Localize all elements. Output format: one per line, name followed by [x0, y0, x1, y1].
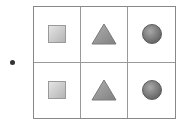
cell-r2-c2: [81, 63, 128, 119]
cell-r1-c1: [34, 7, 81, 63]
circle-icon: [142, 80, 162, 100]
circle-icon: [142, 24, 162, 44]
triangle-icon: [91, 79, 117, 101]
cell-r1-c2: [81, 7, 128, 63]
square-icon: [48, 25, 66, 43]
cell-r1-c3: [128, 7, 175, 63]
bullet-point: [10, 60, 15, 65]
triangle-icon: [91, 23, 117, 45]
shape-grid: [33, 6, 176, 119]
cell-r2-c3: [128, 63, 175, 119]
square-icon: [48, 81, 66, 99]
cell-r2-c1: [34, 63, 81, 119]
